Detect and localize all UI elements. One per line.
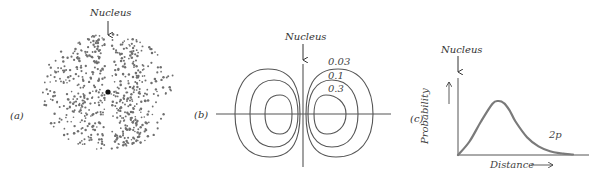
contour-left-0.03 [235, 69, 300, 157]
contour-label-0.3: 0.3 [328, 84, 344, 94]
figure-canvas [0, 0, 602, 179]
panel-c-chart [449, 56, 589, 165]
panel-b-contours [216, 64, 391, 167]
panel-b-nucleus-label: Nucleus [285, 32, 326, 42]
contour-label-0.1: 0.1 [328, 71, 344, 81]
panel-c-curve-label: 2p [549, 130, 562, 140]
panel-a-nucleus-label: Nucleus [90, 8, 131, 18]
panel-c-ylabel: Probability [420, 88, 430, 144]
panel-c-2p-curve [458, 101, 573, 155]
panel-c-xlabel: Distance [490, 160, 534, 170]
panel-b-label: (b) [194, 110, 208, 120]
panel-c-nucleus-label: Nucleus [441, 45, 482, 55]
panel-a-label: (a) [10, 111, 24, 121]
orbital-figure: (a) Nucleus (b) Nucleus 0.03 0.1 0.3 (c)… [0, 0, 602, 179]
panel-a-nucleus-dot [105, 89, 110, 94]
contour-label-0.03: 0.03 [328, 57, 350, 67]
